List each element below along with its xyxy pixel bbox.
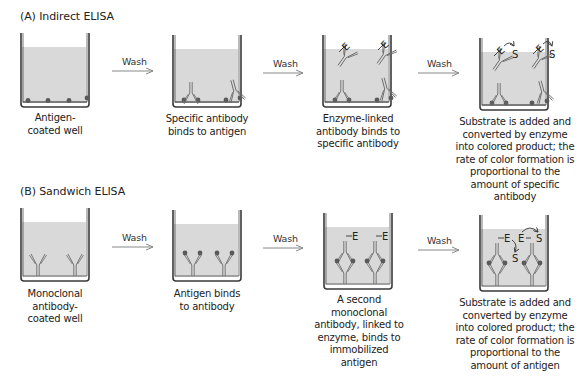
caption-b4: Substrate is added and converted by enzy… — [453, 297, 577, 372]
well-a2 — [173, 35, 246, 107]
wash-label-b3: Wash — [427, 235, 452, 246]
caption-a1: Antigen- coated well — [25, 112, 85, 137]
well-a4: E S E S — [480, 38, 555, 110]
svg-text:E: E — [382, 231, 388, 242]
well-b3: E E — [324, 213, 392, 289]
caption-b2: Antigen binds to antibody — [172, 288, 242, 313]
svg-text:S: S — [536, 233, 542, 244]
svg-text:S: S — [549, 49, 555, 60]
well-a3: E E — [323, 35, 398, 107]
caption-a2: Specific antibody binds to antigen — [158, 113, 256, 138]
well-b1 — [21, 208, 89, 281]
panel-b-title: (B) Sandwich ELISA — [20, 185, 125, 198]
caption-a4: Substrate is added and converted by enzy… — [453, 116, 577, 204]
svg-text:S: S — [512, 253, 518, 264]
wash-label-a1: Wash — [122, 56, 147, 67]
wash-label-b2: Wash — [273, 233, 298, 244]
caption-b1: Monoclonal antibody-coated well — [22, 288, 88, 326]
panel-a-title: (A) Indirect ELISA — [20, 10, 114, 23]
svg-text:E: E — [504, 233, 510, 244]
well-b4: E S E S — [480, 215, 548, 291]
svg-text:S: S — [512, 49, 518, 60]
caption-b3: A second monoclonal antibody, linked to … — [314, 294, 404, 369]
caption-a3: Enzyme-linked antibody binds to specific… — [314, 113, 402, 151]
wash-label-a3: Wash — [427, 58, 452, 69]
well-b2 — [173, 210, 241, 281]
wash-label-b1: Wash — [122, 232, 147, 243]
well-a1 — [21, 33, 89, 107]
svg-text:E: E — [518, 233, 524, 244]
svg-text:E: E — [352, 231, 358, 242]
wash-label-a2: Wash — [273, 58, 298, 69]
